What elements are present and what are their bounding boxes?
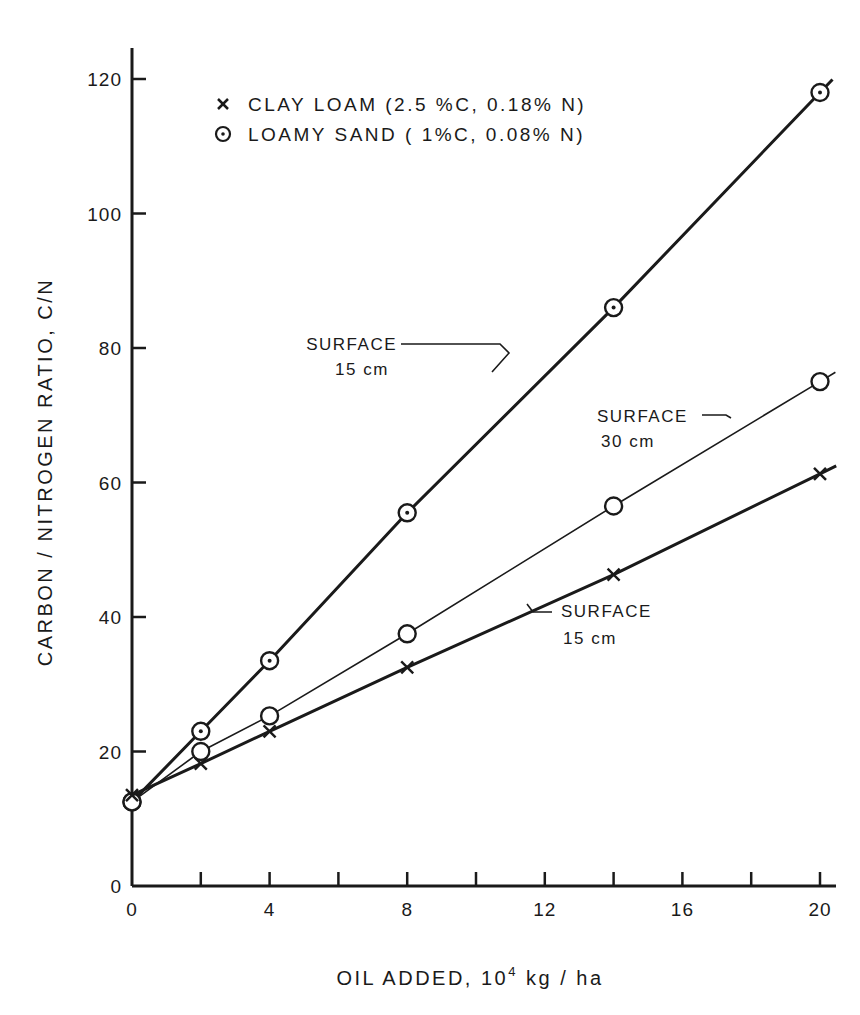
- open-circle-marker-icon: [261, 707, 278, 724]
- annotation-clay-loam-15cm: SURFACE 15 cm: [527, 602, 652, 648]
- annotation-loamy-sand-15cm: SURFACE 15 cm: [306, 335, 509, 379]
- legend-item-clay-loam: CLAY LOAM (2.5 %C, 0.18% N): [218, 94, 586, 115]
- open-circle-marker-icon: [605, 498, 622, 515]
- annotation-line1: SURFACE: [597, 407, 688, 426]
- x-marker-icon: [264, 725, 276, 737]
- leader-line: [702, 415, 731, 418]
- dotted-circle-marker-icon: [216, 127, 230, 141]
- x-marker-icon: [218, 99, 228, 109]
- x-axis-title-unit: kg / ha: [518, 967, 604, 989]
- annotation-loamy-sand-30cm: SURFACE 30 cm: [597, 407, 731, 451]
- series-loamy-sand-surface-15-cm: [124, 80, 833, 811]
- series-clay-loam-surface-15-cm: [126, 466, 836, 801]
- open-circle-marker-icon: [192, 743, 209, 760]
- y-tick-label: 80: [99, 338, 122, 359]
- x-tick-label: 4: [264, 899, 276, 920]
- axes: 020406080100120 048121620: [87, 48, 836, 920]
- y-tick-label: 60: [99, 473, 122, 494]
- series-line: [132, 466, 836, 795]
- dotted-circle-marker-icon: [605, 299, 622, 316]
- annotation-line1: SURFACE: [306, 335, 397, 354]
- annotation-line2: 30 cm: [601, 432, 655, 451]
- y-ticks: 020406080100120: [87, 69, 146, 897]
- dotted-circle-marker-icon: [192, 723, 209, 740]
- chart: 020406080100120 048121620 OIL ADDED, 104…: [0, 0, 860, 1015]
- open-circle-marker-icon: [812, 373, 829, 390]
- leader-line: [401, 344, 509, 372]
- x-axis-title-exponent: 4: [508, 964, 518, 979]
- x-marker-icon: [401, 661, 413, 673]
- legend-label-loamy-sand: LOAMY SAND ( 1%C, 0.08% N): [248, 124, 585, 145]
- x-axis-title-main: OIL ADDED, 10: [336, 967, 508, 989]
- x-tick-label: 16: [671, 899, 694, 920]
- y-tick-label: 120: [87, 69, 122, 90]
- x-ticks: 048121620: [126, 872, 831, 920]
- x-tick-label: 12: [533, 899, 556, 920]
- x-marker-icon: [814, 468, 826, 480]
- y-tick-label: 0: [110, 876, 122, 897]
- dotted-circle-marker-icon: [261, 652, 278, 669]
- y-axis-title: CARBON / NITROGEN RATIO, C/N: [34, 278, 56, 667]
- x-tick-label: 20: [808, 899, 831, 920]
- y-tick-label: 100: [87, 204, 122, 225]
- legend-item-loamy-sand: LOAMY SAND ( 1%C, 0.08% N): [216, 124, 585, 145]
- legend-label-clay-loam: CLAY LOAM (2.5 %C, 0.18% N): [248, 94, 586, 115]
- annotation-line1: SURFACE: [561, 602, 652, 621]
- dotted-circle-marker-icon: [812, 84, 829, 101]
- annotation-line2: 15 cm: [563, 629, 617, 648]
- legend: CLAY LOAM (2.5 %C, 0.18% N) LOAMY SAND (…: [216, 94, 586, 145]
- y-tick-label: 40: [99, 607, 122, 628]
- series-loamy-sand-surface-30-cm: [124, 372, 836, 810]
- annotation-line2: 15 cm: [335, 360, 389, 379]
- series-line: [132, 80, 833, 802]
- open-circle-marker-icon: [399, 625, 416, 642]
- x-tick-label: 0: [126, 899, 138, 920]
- x-marker-icon: [608, 569, 620, 581]
- series-layer: [124, 80, 837, 811]
- x-axis-title: OIL ADDED, 104 kg / ha: [336, 964, 603, 989]
- x-tick-label: 8: [401, 899, 413, 920]
- y-tick-label: 20: [99, 742, 122, 763]
- dotted-circle-marker-icon: [399, 504, 416, 521]
